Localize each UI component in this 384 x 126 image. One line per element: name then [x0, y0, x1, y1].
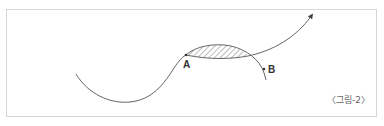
point-b-label: B: [268, 64, 275, 75]
point-b-marker: [263, 68, 266, 71]
figure-caption: 〈그림-2〉: [327, 93, 370, 106]
point-a-label: A: [183, 59, 190, 70]
point-a-marker: [185, 54, 188, 57]
curve-diagram: [0, 0, 384, 126]
main-trajectory: [76, 15, 312, 102]
